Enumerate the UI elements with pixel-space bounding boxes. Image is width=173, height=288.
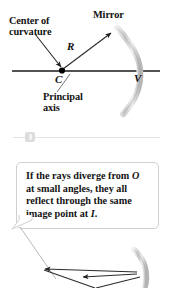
ray-lower: [96, 277, 140, 288]
callout-text: If the rays diverge from O at small angl…: [26, 170, 150, 220]
callout-line-2: at small angles, they: [26, 183, 114, 194]
label-radius-r: R: [67, 41, 74, 52]
drag-handle-icon[interactable]: [25, 132, 35, 142]
divider-line: [13, 137, 160, 138]
bottom-mirror-diagram: Mirror C: [0, 228, 173, 288]
label-point-v: V: [134, 73, 141, 84]
label-center-of-curvature: Center of curvature: [9, 16, 51, 37]
callout-line-1: If the rays diverge from: [26, 170, 129, 181]
callout-period: .: [95, 208, 98, 219]
ray-to-c: [83, 274, 137, 277]
label-point-c: C: [55, 74, 62, 85]
drag-handle-grip: [29, 134, 32, 140]
top-mirror-diagram: Center of curvature Mirror R C V Princip…: [0, 0, 173, 128]
ray-to-left-upper: [45, 269, 137, 272]
callout-box: If the rays diverge from O at small angl…: [16, 162, 159, 229]
ray-left-down: [44, 270, 95, 288]
center-of-curvature-leader: [35, 34, 61, 67]
label-principal-axis: Principal axis: [43, 92, 83, 113]
bottom-diagram-svg: [0, 228, 173, 288]
label-mirror-top: Mirror: [93, 10, 124, 21]
callout-point-o: O: [132, 170, 139, 181]
figure-page: Center of curvature Mirror R C V Princip…: [0, 0, 173, 288]
